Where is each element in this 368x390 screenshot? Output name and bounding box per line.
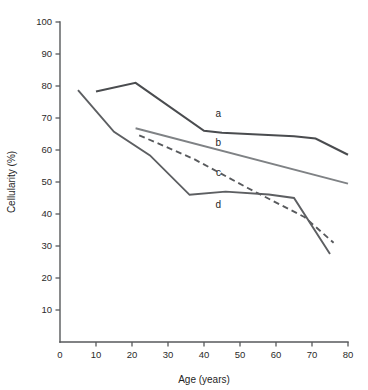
- y-axis-title: Cellularity (%): [6, 151, 17, 213]
- line-chart: 10203040506070809010001020304050607080 a…: [0, 0, 368, 390]
- chart-container: 10203040506070809010001020304050607080 a…: [0, 0, 368, 390]
- y-tick-label: 90: [41, 48, 52, 59]
- series-line-b: [136, 128, 348, 183]
- x-tick-label: 40: [199, 349, 210, 360]
- x-tick-label: 50: [235, 349, 246, 360]
- y-tick-label: 30: [41, 240, 52, 251]
- axes: 10203040506070809010001020304050607080: [36, 16, 353, 360]
- y-tick-label: 50: [41, 176, 52, 187]
- x-axis-title: Age (years): [178, 374, 230, 385]
- series-labels: abcd: [216, 108, 222, 210]
- axis-titles: Age (years) Cellularity (%): [6, 151, 230, 385]
- y-tick-label: 70: [41, 112, 52, 123]
- series-line-d: [78, 90, 330, 254]
- series-label-d: d: [216, 199, 222, 210]
- series-lines: [78, 83, 348, 254]
- x-tick-label: 0: [57, 349, 62, 360]
- x-tick-label: 70: [307, 349, 318, 360]
- y-tick-label: 10: [41, 304, 52, 315]
- x-tick-label: 20: [127, 349, 138, 360]
- series-label-a: a: [216, 108, 222, 119]
- x-tick-label: 30: [163, 349, 174, 360]
- x-tick-label: 60: [271, 349, 282, 360]
- y-tick-label: 60: [41, 144, 52, 155]
- series-line-c: [139, 135, 333, 243]
- x-tick-label: 10: [91, 349, 102, 360]
- series-label-b: b: [216, 137, 222, 148]
- series-label-c: c: [216, 167, 221, 178]
- y-tick-label: 80: [41, 80, 52, 91]
- y-tick-label: 40: [41, 208, 52, 219]
- y-tick-label: 20: [41, 272, 52, 283]
- x-tick-label: 80: [343, 349, 354, 360]
- y-tick-label: 100: [36, 16, 52, 27]
